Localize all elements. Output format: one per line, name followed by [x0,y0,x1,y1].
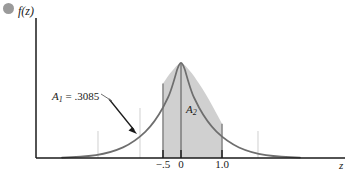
normal-distribution-figure: f(z) z −.5 0 1.0 A1 = .3085 A2 [0,0,357,179]
x-axis-label: z [339,159,343,171]
a2-subscript: 2 [193,108,197,117]
annotation-arrow-a1 [101,94,137,134]
a1-value: = .3085 [63,90,99,102]
a2-symbol: A [186,103,193,115]
annotation-a2-label: A2 [186,103,197,117]
a1-symbol: A [52,90,59,102]
x-tick-label-neg-half: −.5 [156,158,170,170]
x-tick-label-zero: 0 [178,158,184,170]
annotation-a1-label: A1 = .3085 [52,90,99,104]
x-tick-label-one: 1.0 [215,158,229,170]
y-axis-label: f(z) [18,4,34,19]
